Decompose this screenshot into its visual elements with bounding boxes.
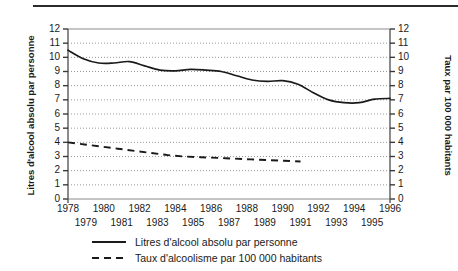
y-tick-label-left-10: 10: [42, 52, 60, 62]
y-tick-label-right-7: 7: [398, 94, 416, 104]
legend-dashed-line-icon: [92, 252, 126, 264]
y-tick-label-left-2: 2: [42, 165, 60, 175]
chart-legend: Litres d'alcool absolu par personne Taux…: [92, 234, 392, 266]
y-tick-label-left-4: 4: [42, 137, 60, 147]
x-tick-label-1981: 1981: [105, 217, 139, 228]
y-tick-label-right-5: 5: [398, 123, 416, 133]
top-divider-rule: [33, 5, 458, 7]
x-tick-label-1993: 1993: [319, 217, 353, 228]
x-tick-label-1979: 1979: [69, 217, 103, 228]
x-tick-label-1988: 1988: [230, 203, 264, 214]
x-tick-label-1992: 1992: [301, 203, 335, 214]
series-line-taux-alcoolisme: [68, 142, 301, 161]
x-tick-label-1995: 1995: [355, 217, 389, 228]
y-tick-label-right-8: 8: [398, 80, 416, 90]
legend-solid-line-icon: [92, 236, 126, 248]
x-tick-label-1982: 1982: [123, 203, 157, 214]
legend-label-taux-alcoolisme: Taux d'alcoolisme par 100 000 habitants: [135, 252, 322, 265]
y-tick-label-right-3: 3: [398, 151, 416, 161]
legend-item-litres-alcool: Litres d'alcool absolu par personne: [92, 234, 392, 250]
x-tick-label-1978: 1978: [51, 203, 85, 214]
x-tick-label-1980: 1980: [87, 203, 121, 214]
legend-item-taux-alcoolisme: Taux d'alcoolisme par 100 000 habitants: [92, 250, 392, 266]
y-tick-label-left-1: 1: [42, 179, 60, 189]
x-tick-label-1989: 1989: [248, 217, 282, 228]
y-tick-label-left-12: 12: [42, 24, 60, 34]
y-tick-label-right-11: 11: [398, 38, 416, 48]
y-tick-label-right-9: 9: [398, 66, 416, 76]
plot-area: [0, 0, 458, 271]
x-tick-label-1990: 1990: [266, 203, 300, 214]
y-tick-label-left-8: 8: [42, 80, 60, 90]
y-tick-label-left-9: 9: [42, 66, 60, 76]
x-tick-label-1996: 1996: [373, 203, 407, 214]
x-tick-label-1987: 1987: [212, 217, 246, 228]
x-tick-label-1991: 1991: [284, 217, 318, 228]
y-tick-label-right-1: 1: [398, 179, 416, 189]
x-tick-label-1994: 1994: [337, 203, 371, 214]
y-tick-label-left-7: 7: [42, 94, 60, 104]
legend-label-litres-alcool: Litres d'alcool absolu par personne: [135, 236, 298, 249]
series-line-litres-alcool: [68, 50, 390, 103]
y-tick-label-left-5: 5: [42, 123, 60, 133]
y-tick-label-right-10: 10: [398, 52, 416, 62]
x-tick-label-1986: 1986: [194, 203, 228, 214]
y-tick-label-right-4: 4: [398, 137, 416, 147]
x-tick-label-1985: 1985: [176, 217, 210, 228]
chart-figure: Litres d'alcool absolu par personne Taux…: [0, 0, 458, 271]
grid-lines: [68, 43, 390, 185]
y-tick-label-right-2: 2: [398, 165, 416, 175]
y-tick-label-left-6: 6: [42, 109, 60, 119]
y-axis-left-title: Litres d'alcool absolu par personne: [25, 26, 36, 206]
y-tick-label-right-0: 0: [398, 194, 416, 204]
y-tick-label-left-3: 3: [42, 151, 60, 161]
y-tick-label-right-6: 6: [398, 109, 416, 119]
y-tick-label-left-0: 0: [42, 194, 60, 204]
y-tick-label-right-12: 12: [398, 24, 416, 34]
x-tick-label-1983: 1983: [140, 217, 174, 228]
y-axis-right-title: Taux par 100 000 habitants: [443, 26, 454, 206]
x-tick-label-1984: 1984: [158, 203, 192, 214]
y-tick-label-left-11: 11: [42, 38, 60, 48]
